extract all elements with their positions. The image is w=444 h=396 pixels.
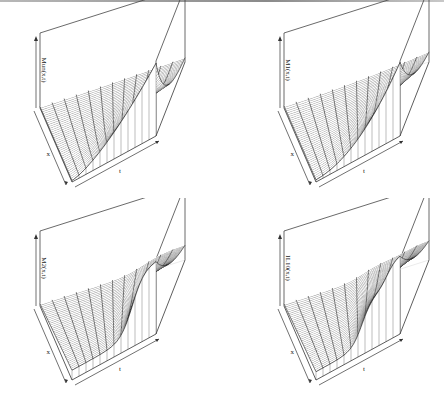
x-axis-label: x	[47, 348, 51, 356]
surface-svg-il10: xtIL10(x,t)	[222, 198, 444, 396]
z-axis-arrowhead	[278, 36, 282, 41]
t-axis-label: t	[119, 167, 121, 175]
surface-line-t	[401, 257, 402, 258]
surface-plot-mun: xtMun(x,t)	[0, 0, 222, 198]
surface-svg-m2: xtM2(x,t)	[0, 198, 222, 396]
surface-line-t	[414, 73, 415, 74]
box-edge-top-right	[156, 0, 185, 61]
surface-mesh	[284, 241, 429, 380]
z-axis-label: IL10(x,t)	[284, 255, 292, 281]
surface-svg-m1: xtM1(x,t)	[222, 0, 444, 198]
z-axis-arrowhead	[34, 36, 38, 41]
x-axis-label: x	[291, 348, 295, 356]
box-edge-base-right	[400, 260, 429, 334]
box-edge-top-back	[40, 0, 185, 33]
z-axis-arrowhead	[34, 234, 38, 239]
surface-mesh	[40, 58, 185, 182]
surface-plot-m2: xtM2(x,t)	[0, 198, 222, 396]
box-edge-top-back	[284, 198, 429, 231]
surface-plot-il10: xtIL10(x,t)	[222, 198, 444, 396]
box-edge-top-right	[400, 0, 429, 61]
z-axis-arrowhead	[278, 234, 282, 239]
t-axis-label: t	[119, 365, 121, 373]
box-edge-top-back	[284, 0, 429, 33]
surface-line-t	[158, 264, 159, 265]
box-edge-top-back	[40, 198, 185, 231]
t-axis-label: t	[363, 365, 365, 373]
surface-line-t	[415, 257, 416, 258]
x-axis-label: x	[291, 150, 295, 158]
z-axis-label: M2(x,t)	[40, 257, 48, 279]
z-axis-label: M1(x,t)	[284, 59, 292, 81]
surface-plot-m1: xtM1(x,t)	[222, 0, 444, 198]
z-axis-label: Mun(x,t)	[40, 58, 48, 84]
surface-line-t	[170, 263, 171, 264]
surface-mesh	[40, 245, 185, 380]
surface-svg-mun: xtMun(x,t)	[0, 0, 222, 198]
t-axis-label: t	[363, 167, 365, 175]
box-edge-base-right	[156, 260, 185, 334]
x-axis-label: x	[47, 150, 51, 158]
